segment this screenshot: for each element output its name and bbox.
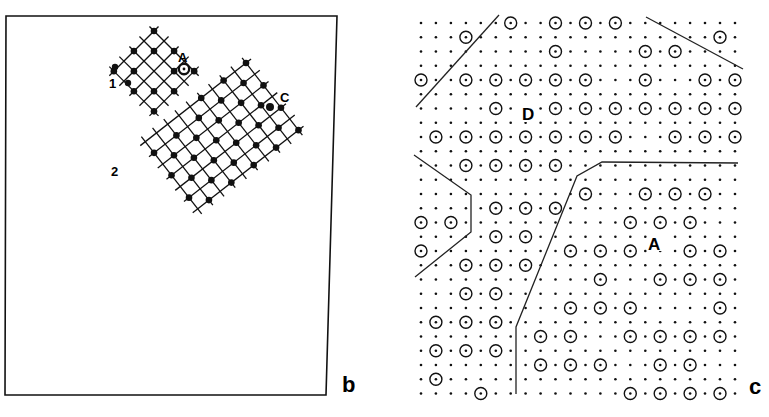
lattice-dot [719,122,722,125]
lattice-dot [629,221,632,224]
lattice-dot [480,293,483,296]
lattice-dot [554,50,557,53]
lattice-dot [420,50,423,53]
lattice-dot [509,236,512,239]
lattice-dot [539,250,542,253]
lattice-dot [554,164,557,167]
lattice-dot [435,392,438,395]
lattice-dot [734,164,737,167]
lattice-dot [629,207,632,210]
lattice-dot [704,278,707,281]
lattice-dot [704,350,707,353]
lattice-dot [734,221,737,224]
lattice-dot [450,36,453,39]
lattice-dot [480,250,483,253]
lattice-dot [659,350,662,353]
lattice-dot [689,307,692,310]
lattice-dot [539,136,542,139]
figure-diagram: 1 2 A C b D A c [0,0,769,417]
lattice-dot [584,307,587,310]
lattice-dot [704,221,707,224]
lattice-dot [435,65,438,68]
lattice-dot [435,378,438,381]
lattice-dot [629,36,632,39]
lattice-dot [569,122,572,125]
lattice-dot [644,207,647,210]
lattice-dot [524,36,527,39]
lattice-dot [629,65,632,68]
lattice-dot [420,193,423,196]
lattice-dot [644,50,647,53]
lattice-dot [420,321,423,324]
lattice-dot [509,335,512,338]
lattice-dot [689,179,692,182]
lattice-dot [719,65,722,68]
lattice-dot [420,207,423,210]
occupied-site [171,152,178,159]
lattice-dot [495,150,498,153]
lattice-dot [420,378,423,381]
lattice-dot [704,293,707,296]
lattice-dot [689,378,692,381]
lattice-dot [480,364,483,367]
lattice-dot [584,364,587,367]
lattice-dot [450,392,453,395]
lattice-dot [465,179,468,182]
lattice-dot [599,207,602,210]
lattice-dot [734,250,737,253]
lattice-dot [629,350,632,353]
lattice-dot [674,378,677,381]
lattice-dot [704,93,707,96]
lattice-dot [480,193,483,196]
lattice-dot [554,364,557,367]
lattice-dot [480,335,483,338]
lattice-dot [644,136,647,139]
occupied-site [191,154,198,161]
lattice-dot [674,93,677,96]
lattice-dot [629,79,632,82]
lattice-dot [524,50,527,53]
lattice-dot [465,364,468,367]
lattice-dot [614,65,617,68]
lattice-dot [554,22,557,25]
lattice-dot [480,93,483,96]
lattice-dot [659,378,662,381]
lattice-dot [584,236,587,239]
lattice-dot [509,65,512,68]
lattice-dot [509,36,512,39]
lattice-dot [614,207,617,210]
lattice-dot [704,307,707,310]
lattice-dot [719,321,722,324]
lattice-dot [435,179,438,182]
lattice-dot [480,378,483,381]
lattice-dot [509,193,512,196]
lattice-dot [614,278,617,281]
lattice-dot [689,321,692,324]
lattice-dot [734,307,737,310]
lattice-dot [719,392,722,395]
lattice-dot [659,164,662,167]
lattice-dot [584,193,587,196]
lattice-dot [569,79,572,82]
lattice-dot [614,136,617,139]
lattice-dot [629,392,632,395]
lattice-dot [614,50,617,53]
lattice-dot [539,50,542,53]
lattice-dot [704,179,707,182]
occupied-site [193,135,200,142]
lattice-dot [689,50,692,53]
lattice-dot [465,93,468,96]
lattice-dot [734,36,737,39]
lattice-dot [569,93,572,96]
domain-a-label: A [648,235,660,254]
lattice-dot [495,335,498,338]
lattice-dot [719,264,722,267]
lattice-dot [509,307,512,310]
lattice-dot [569,22,572,25]
lattice-dot [629,50,632,53]
lattice-dot [524,221,527,224]
lattice-dot [420,136,423,139]
lattice-dot [509,321,512,324]
lattice-dot [629,307,632,310]
lattice-dot [674,250,677,253]
